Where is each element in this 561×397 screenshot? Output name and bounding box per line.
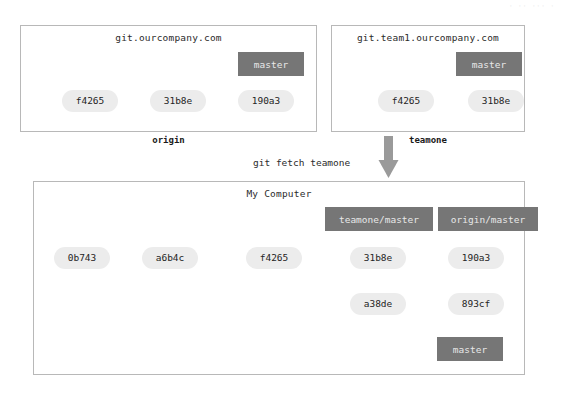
repo-title-local: My Computer [34,188,524,199]
commit-node[interactable]: 31b8e [468,90,524,112]
commit-node[interactable]: 31b8e [350,247,406,269]
repo-caption-teamone: teamone [331,135,525,145]
repo-title-origin: git.ourcompany.com [21,32,316,43]
commit-node[interactable]: 190a3 [238,90,294,112]
commit-node[interactable]: 190a3 [448,247,504,269]
scan-artifact-text: · ·· ··· · [509,2,555,9]
commit-node[interactable]: a6b4c [142,247,198,269]
branch-label[interactable]: master [456,52,522,76]
commit-node[interactable]: f4265 [378,90,434,112]
fetch-command-label: git fetch teamone [253,157,350,168]
diagram-canvas: · ·· ··· · [0,0,561,397]
repo-box-teamone: git.team1.ourcompany.com [331,25,525,132]
repo-caption-origin: origin [20,135,317,145]
branch-label[interactable]: master [437,337,503,361]
commit-node[interactable]: 31b8e [150,90,206,112]
branch-label[interactable]: master [238,52,304,76]
branch-label[interactable]: origin/master [438,207,538,231]
commit-node[interactable]: 893cf [448,293,504,315]
repo-box-origin: git.ourcompany.com [20,25,317,132]
commit-node[interactable]: f4265 [62,90,118,112]
commit-node[interactable]: f4265 [246,247,302,269]
commit-node[interactable]: a38de [350,293,406,315]
branch-label[interactable]: teamone/master [325,207,433,231]
repo-title-teamone: git.team1.ourcompany.com [332,32,524,43]
commit-node[interactable]: 0b743 [54,247,110,269]
